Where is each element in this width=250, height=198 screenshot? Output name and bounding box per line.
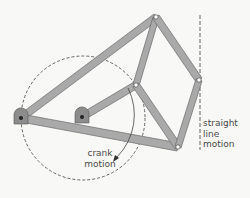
- straight-label-line2: line: [203, 129, 238, 140]
- linkage-drawing: [0, 0, 250, 198]
- straight-line-motion-label: straight line motion: [203, 118, 238, 150]
- straight-label-line1: straight: [203, 118, 238, 129]
- links: [19, 14, 202, 151]
- fixed-pivot-bracket-B: [75, 107, 89, 123]
- pivot-B-pin: [80, 115, 84, 119]
- straight-label-line3: motion: [203, 139, 238, 150]
- crank-label-line1: crank: [80, 148, 120, 159]
- linkage-diagram: crank motion straight line motion: [0, 0, 250, 198]
- joint-C: [154, 15, 158, 19]
- crank-motion-label: crank motion: [80, 148, 120, 169]
- fixed-pivot-bracket-A: [14, 108, 28, 124]
- link-C-E: [153, 15, 202, 82]
- link-E-F: [175, 79, 202, 148]
- joint-D: [134, 83, 138, 87]
- joint-E: [197, 78, 201, 82]
- link-A-C: [19, 14, 158, 121]
- crank-label-line2: motion: [80, 159, 120, 170]
- joint-F: [176, 145, 180, 149]
- pivot-A-pin: [19, 116, 23, 120]
